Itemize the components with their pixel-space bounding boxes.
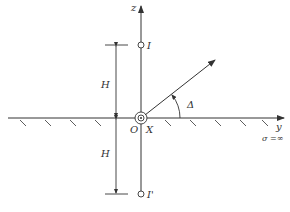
angle-arc — [172, 95, 180, 118]
angle-label: Δ — [186, 99, 194, 110]
conductivity-label: σ =∞ — [262, 134, 283, 143]
diagram-canvas: z y I I' H H O X Δ σ =∞ — [0, 0, 290, 212]
image-point-upper — [138, 42, 144, 48]
origin-label: O — [130, 124, 138, 135]
distance-label-upper: H — [100, 79, 110, 90]
y-axis-label: y — [275, 121, 282, 132]
source-label: X — [145, 124, 154, 135]
source-symbol — [135, 112, 147, 124]
distance-label-lower: H — [100, 148, 110, 159]
z-axis-label: z — [130, 2, 137, 13]
image-point-lower — [138, 191, 144, 197]
image-label-upper: I — [146, 40, 152, 51]
direction-arrow — [145, 60, 215, 115]
image-label-lower: I' — [146, 189, 154, 200]
